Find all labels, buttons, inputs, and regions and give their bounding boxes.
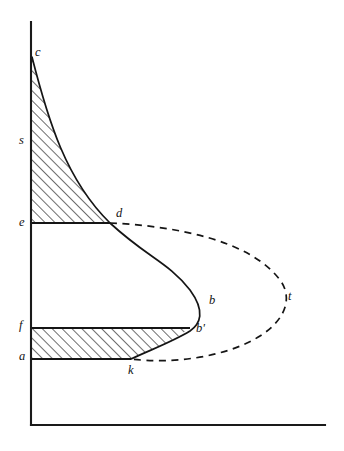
label-point-d: d — [116, 207, 122, 220]
label-point-c: c — [35, 46, 41, 59]
label-point-e: e — [19, 216, 25, 229]
label-point-f: f — [19, 319, 22, 332]
label-point-b: b — [209, 294, 215, 307]
figure-container: c s e d b t f b' a k — [0, 0, 344, 451]
label-point-s: s — [19, 134, 24, 147]
lower-shaded-band — [20, 318, 210, 373]
label-point-k: k — [128, 364, 134, 377]
label-point-a: a — [19, 350, 25, 363]
label-point-b-prime: b' — [196, 322, 205, 335]
diagram-svg — [0, 0, 344, 451]
label-point-t: t — [288, 290, 291, 303]
